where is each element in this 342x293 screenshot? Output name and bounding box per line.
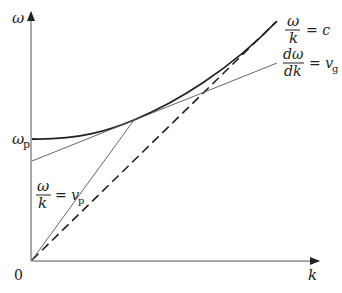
group-velocity-tangent xyxy=(32,63,277,161)
svg-text:g: g xyxy=(332,63,339,74)
svg-text:p: p xyxy=(23,138,30,151)
svg-text:dω: dω xyxy=(283,46,304,62)
origin-label: 0 xyxy=(14,267,23,283)
omega-axis-label: ω xyxy=(12,9,24,27)
svg-text:dk: dk xyxy=(284,63,301,79)
svg-text:= c: = c xyxy=(306,22,330,38)
svg-text:ω: ω xyxy=(287,12,299,30)
light-line xyxy=(32,22,276,260)
svg-text:= v: = v xyxy=(55,187,79,203)
group-velocity-label: dω dk = v g xyxy=(283,46,339,79)
svg-text:p: p xyxy=(78,195,84,206)
dispersion-diagram: ω k 0 ω p ω k = c dω dk = v g ω k = v p xyxy=(0,0,342,293)
svg-text:= v: = v xyxy=(309,55,333,71)
svg-text:k: k xyxy=(38,194,47,212)
omega-p-label: ω p xyxy=(12,130,30,151)
light-line-label: ω k = c xyxy=(285,12,330,47)
svg-text:k: k xyxy=(289,29,298,47)
svg-text:ω: ω xyxy=(37,177,49,195)
phase-velocity-label: ω k = v p xyxy=(36,177,84,212)
k-axis-label: k xyxy=(308,266,317,284)
dispersion-curve xyxy=(32,21,277,139)
